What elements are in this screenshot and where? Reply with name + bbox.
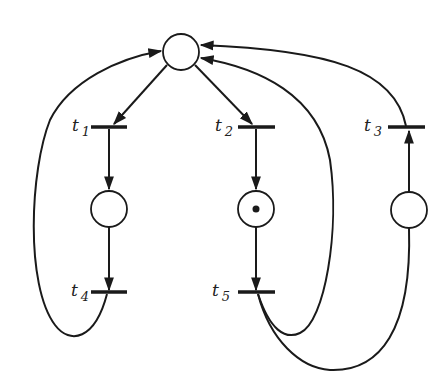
- arcs: [34, 45, 409, 370]
- petri-net-diagram: t1 t2 t3 t4 t5: [0, 0, 445, 386]
- label-t2: t2: [215, 115, 233, 139]
- label-t3: t3: [364, 115, 382, 139]
- place-p1: [91, 191, 127, 227]
- arc-p0-t2: [195, 65, 252, 124]
- place-p0: [163, 34, 199, 70]
- label-t5: t5: [212, 280, 230, 304]
- label-t1: t1: [72, 115, 90, 139]
- arc-t5-p3: [258, 228, 409, 370]
- token-p2: [253, 206, 260, 213]
- arc-t3-p0: [201, 45, 406, 126]
- label-t4: t4: [71, 280, 89, 304]
- place-p3: [391, 192, 427, 228]
- arc-p0-t1: [114, 65, 167, 124]
